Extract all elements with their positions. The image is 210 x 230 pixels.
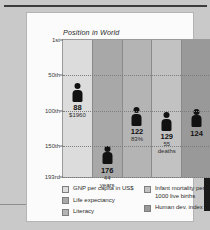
legend-swatch-icon — [62, 197, 69, 204]
legend-label: Human dev. index — [155, 204, 203, 212]
data-label-sub1-3: 83% — [131, 136, 144, 143]
legend-swatch-icon — [62, 209, 69, 216]
legend-column-right: Infant mortality per 1000 live birthsHum… — [144, 185, 210, 216]
data-label-rank-2: 176 — [100, 166, 115, 175]
data-label-group-4: 12955deaths — [158, 132, 176, 155]
plot-column-3: 12283% — [123, 40, 153, 177]
y-axis-label-100th: 100th — [45, 108, 60, 114]
page-top-rule — [4, 5, 207, 7]
data-label-sub2-4: deaths — [158, 148, 176, 155]
legend-label: Literacy — [73, 208, 94, 216]
data-marker-person-3 — [130, 107, 143, 126]
plot-column-1: 88$1960 — [63, 40, 93, 177]
figure-title: Position in World — [63, 28, 119, 37]
data-marker-person-1 — [71, 83, 84, 102]
y-axis-label-150th: 150th — [45, 143, 60, 149]
data-marker-person-4 — [160, 112, 173, 131]
plot-column-4: 12955deaths — [152, 40, 182, 177]
y-axis-tickmark-1st — [60, 40, 63, 41]
legend-swatch-icon — [144, 186, 151, 193]
data-label-rank-1: 88 — [69, 103, 86, 112]
data-label-sub1-2: 44 — [100, 175, 115, 182]
legend-swatch-icon — [144, 205, 151, 212]
legend-label: Life expectancy — [73, 197, 115, 205]
legend-item-left-1: GNP per capita in US$ — [62, 185, 136, 193]
gridline-193rd — [63, 177, 210, 178]
y-axis-label-193rd: 193rd — [45, 174, 60, 180]
person-head-icon — [164, 112, 170, 118]
data-label-group-5: 124 — [190, 129, 203, 138]
person-head-icon — [194, 109, 200, 115]
legend-item-left-2: Life expectancy — [62, 197, 136, 205]
person-head-icon — [134, 107, 140, 113]
plot-column-5: 124 — [182, 40, 210, 177]
y-axis-label-1st: 1st — [52, 37, 60, 43]
legend-item-right-2: Human dev. index — [144, 204, 210, 212]
y-axis-tickmark-150th — [60, 146, 63, 147]
person-body-icon — [192, 115, 202, 127]
plot-columns: 88$196017644years12283%12955deaths124 — [63, 40, 210, 177]
person-head-icon — [74, 83, 80, 89]
person-body-icon — [162, 119, 172, 131]
y-axis-tickmark-193rd — [60, 177, 63, 178]
person-body-icon — [102, 152, 112, 164]
legend-swatch-icon — [62, 186, 69, 193]
y-axis-tickmark-100th — [60, 110, 63, 111]
data-label-group-1: 88$1960 — [69, 103, 86, 119]
legend-column-left: GNP per capita in US$Life expectancyLite… — [62, 185, 136, 216]
person-body-icon — [72, 90, 82, 102]
legend: GNP per capita in US$Life expectancyLite… — [62, 185, 210, 216]
data-label-sub1-4: 55 — [158, 141, 176, 148]
plot-area: 88$196017644years12283%12955deaths124 1s… — [62, 39, 210, 178]
y-axis-tickmark-50th — [60, 74, 63, 75]
person-body-icon — [132, 114, 142, 126]
figure-card: Position in World 88$196017644years12283… — [26, 12, 194, 222]
plot-column-2: 17644years — [93, 40, 123, 177]
data-marker-person-2 — [101, 146, 114, 165]
data-label-rank-4: 129 — [158, 132, 176, 141]
legend-label: Infant mortality per 1000 live births — [155, 185, 210, 200]
person-head-icon — [104, 146, 110, 152]
data-label-sub1-1: $1960 — [69, 112, 86, 119]
y-axis-label-50th: 50th — [48, 72, 60, 78]
data-marker-person-5 — [190, 109, 203, 128]
legend-item-right-1: Infant mortality per 1000 live births — [144, 185, 210, 200]
legend-item-left-3: Literacy — [62, 208, 136, 216]
data-label-rank-5: 124 — [190, 129, 203, 138]
data-label-rank-3: 122 — [131, 127, 144, 136]
data-label-group-3: 12283% — [131, 127, 144, 143]
legend-label: GNP per capita in US$ — [73, 185, 134, 193]
